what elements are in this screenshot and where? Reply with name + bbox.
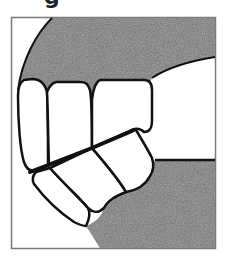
teeth-diagram xyxy=(0,0,227,262)
upper-tooth-1 xyxy=(18,79,48,171)
